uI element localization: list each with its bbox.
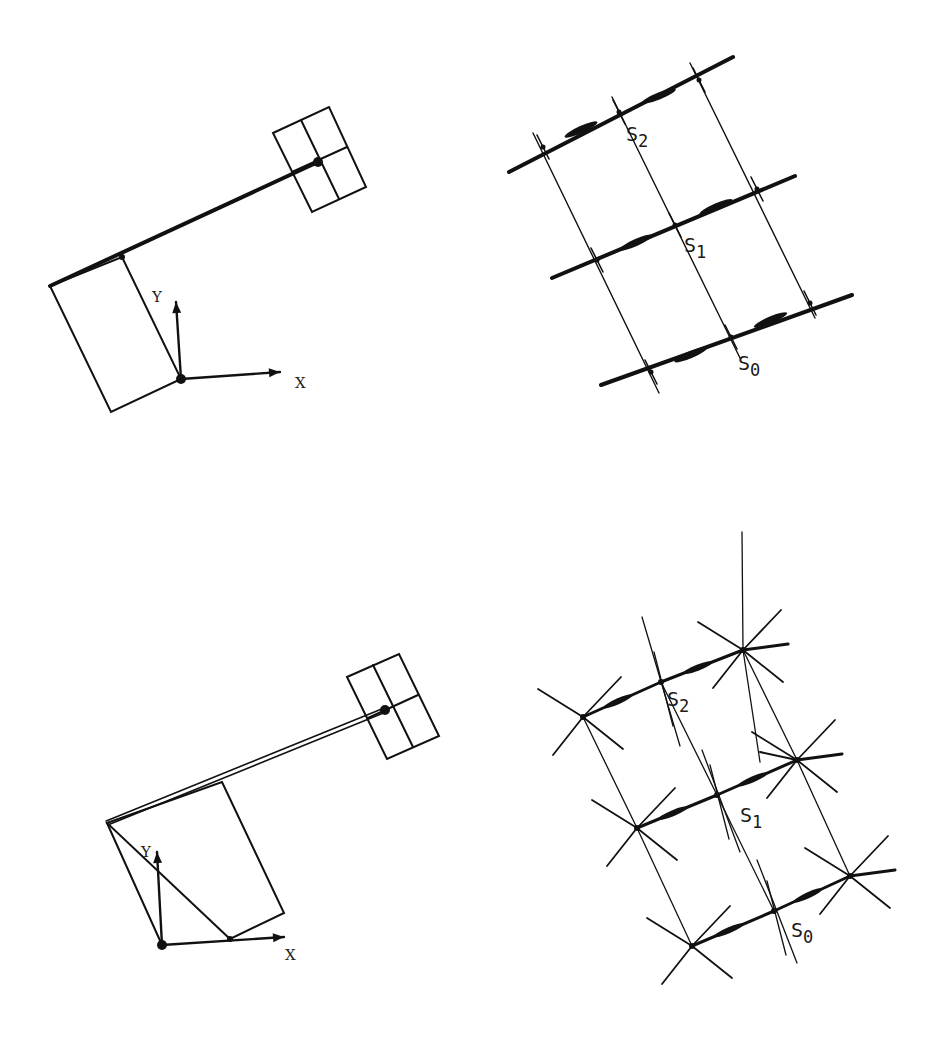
x-axis-arrow-head bbox=[269, 368, 280, 377]
joint-dot bbox=[313, 157, 323, 167]
lattice-column bbox=[533, 133, 659, 393]
star-spoke bbox=[637, 788, 675, 828]
state-label-s1: S1 bbox=[684, 233, 706, 262]
lattice-column-ext bbox=[702, 750, 740, 852]
star-spoke bbox=[637, 828, 677, 860]
arm-link-edge bbox=[108, 712, 386, 825]
row-streak bbox=[792, 886, 824, 905]
bottom-right-lattice-panel: S2S1S0 bbox=[538, 532, 895, 984]
star-spoke bbox=[797, 760, 837, 792]
lattice-column bbox=[690, 63, 815, 318]
arm-link bbox=[50, 162, 318, 286]
state-node bbox=[740, 647, 746, 653]
row-streak bbox=[657, 804, 689, 822]
star-spoke bbox=[583, 677, 621, 717]
x-axis-arrow bbox=[162, 937, 284, 945]
node-tick bbox=[767, 881, 786, 955]
y-axis-arrow-head bbox=[172, 302, 181, 313]
star-spoke bbox=[553, 717, 583, 755]
state-node bbox=[794, 757, 800, 763]
state-node bbox=[729, 335, 734, 340]
lattice-row-ext bbox=[743, 644, 788, 650]
y-axis-label: Y bbox=[151, 288, 163, 306]
base-box bbox=[50, 257, 181, 412]
joint-dot bbox=[119, 254, 125, 260]
star-spoke bbox=[692, 906, 730, 946]
star-spoke bbox=[850, 836, 888, 876]
figure-canvas: XY S2S1S0 XY S2S1S0 bbox=[0, 0, 933, 1037]
row-streak bbox=[618, 232, 654, 253]
state-node bbox=[847, 873, 853, 879]
lattice-row bbox=[601, 295, 852, 385]
star-spoke bbox=[662, 946, 692, 984]
row-streak bbox=[641, 86, 677, 106]
y-axis-arrow-head bbox=[153, 852, 162, 863]
lattice-column-ext bbox=[742, 532, 743, 650]
base-box-edge bbox=[107, 823, 162, 945]
star-spoke bbox=[607, 828, 637, 866]
star-spoke bbox=[850, 876, 890, 908]
state-node bbox=[580, 714, 586, 720]
state-label-s0: S0 bbox=[738, 351, 760, 380]
state-node bbox=[658, 679, 664, 685]
state-node bbox=[714, 792, 720, 798]
y-axis-arrow bbox=[157, 852, 162, 945]
state-node bbox=[634, 825, 640, 831]
state-node bbox=[771, 908, 777, 914]
arm-link-edge bbox=[106, 708, 384, 821]
top-left-arm-panel: XY bbox=[50, 107, 366, 412]
state-node bbox=[697, 78, 702, 83]
state-node bbox=[808, 301, 813, 306]
state-label-s0: S0 bbox=[791, 918, 813, 947]
star-spoke bbox=[698, 622, 743, 650]
row-streak bbox=[713, 921, 745, 939]
state-node bbox=[595, 258, 600, 263]
base-box bbox=[107, 782, 284, 939]
x-axis-arrow-head bbox=[273, 933, 284, 942]
row-streak bbox=[673, 344, 709, 365]
row-streak bbox=[698, 197, 734, 218]
gripper-divider bbox=[368, 695, 418, 718]
x-axis-label: X bbox=[285, 946, 296, 964]
lattice-column-ext bbox=[757, 860, 797, 963]
state-node bbox=[649, 370, 654, 375]
lattice-row-ext bbox=[797, 754, 842, 760]
star-spoke bbox=[797, 720, 835, 760]
row-streak bbox=[602, 692, 634, 711]
y-axis-arrow bbox=[176, 302, 181, 379]
state-label-s1: S1 bbox=[740, 803, 762, 832]
y-axis-label: Y bbox=[140, 843, 152, 861]
x-axis-label: X bbox=[295, 374, 306, 392]
lattice-row-ext bbox=[850, 870, 895, 876]
star-spoke bbox=[692, 946, 732, 978]
top-right-lattice-panel: S2S1S0 bbox=[509, 57, 852, 393]
bottom-left-arm-panel: XY bbox=[106, 654, 439, 964]
state-node bbox=[673, 223, 678, 228]
star-spoke bbox=[583, 717, 623, 749]
state-node bbox=[541, 145, 546, 150]
x-axis-arrow bbox=[181, 372, 280, 379]
star-spoke bbox=[743, 610, 781, 650]
node-tick bbox=[710, 765, 729, 839]
row-streak bbox=[682, 659, 714, 676]
joint-dot bbox=[380, 705, 390, 715]
state-node bbox=[617, 110, 622, 115]
state-node bbox=[755, 187, 760, 192]
state-node bbox=[689, 943, 695, 949]
row-streak bbox=[737, 770, 769, 788]
state-label-s2: S2 bbox=[626, 122, 648, 151]
star-spoke bbox=[743, 650, 783, 682]
star-spoke bbox=[538, 689, 583, 717]
